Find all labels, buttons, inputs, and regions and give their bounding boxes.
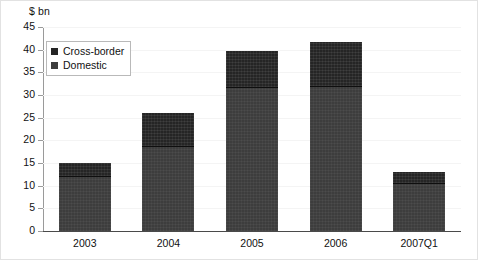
bar-group[interactable] [310,27,362,231]
y-axis-title: $ bn [29,5,50,17]
bar-segment-domestic[interactable] [310,87,362,231]
bar-segment-domestic[interactable] [59,177,111,231]
x-tick-label: 2004 [128,237,208,249]
x-tick-label: 2003 [45,237,125,249]
y-tick-mark [38,186,43,187]
y-tick-mark [38,231,43,232]
y-tick-mark [38,163,43,164]
y-tick-label: 45 [7,20,35,32]
legend-item-cross-border: Cross-border [51,45,124,58]
legend-swatch-domestic [51,62,58,69]
y-tick-mark [38,118,43,119]
y-tick-label: 35 [7,65,35,77]
bar-segment-cross-border[interactable] [142,113,194,147]
bar-segment-domestic[interactable] [142,147,194,231]
y-tick-label: 30 [7,88,35,100]
y-tick-mark [38,140,43,141]
x-axis-line [43,231,461,232]
y-tick-label: 15 [7,156,35,168]
bar-group[interactable] [393,27,445,231]
y-tick-mark [38,95,43,96]
bar-segment-cross-border[interactable] [393,172,445,184]
bar-segment-cross-border[interactable] [59,163,111,177]
y-tick-label: 5 [7,201,35,213]
bar-segment-domestic[interactable] [226,88,278,231]
y-tick-label: 0 [7,224,35,236]
x-tick-label: 2007Q1 [379,237,459,249]
legend-label-domestic: Domestic [63,59,107,72]
legend-swatch-cross-border [51,48,58,55]
y-tick-mark [38,72,43,73]
bar-group[interactable] [226,27,278,231]
bar-group[interactable] [142,27,194,231]
y-tick-mark [38,50,43,51]
bar-segment-domestic[interactable] [393,184,445,231]
legend-item-domestic: Domestic [51,59,124,72]
y-tick-label: 10 [7,179,35,191]
y-tick-label: 20 [7,133,35,145]
bar-segment-cross-border[interactable] [226,51,278,89]
legend-label-cross-border: Cross-border [63,45,124,58]
chart-legend: Cross-border Domestic [46,41,131,76]
stacked-bar-chart: $ bn 454035302520151050 2003200420052006… [0,0,478,260]
x-tick-label: 2005 [212,237,292,249]
y-tick-mark [38,27,43,28]
y-tick-label: 25 [7,111,35,123]
x-tick-label: 2006 [296,237,376,249]
y-tick-label: 40 [7,43,35,55]
y-tick-mark [38,208,43,209]
bar-segment-cross-border[interactable] [310,42,362,87]
